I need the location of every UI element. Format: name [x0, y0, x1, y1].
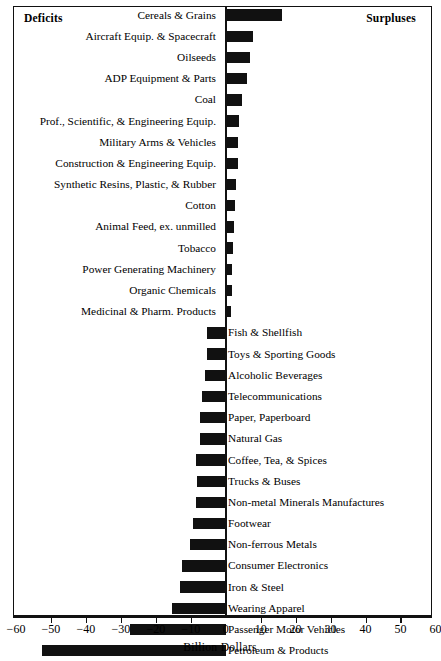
- bar-row: Passenger Motor Vehicles: [0, 620, 440, 641]
- x-axis-tick-label: −30: [111, 622, 130, 637]
- bar-row: Paper, Paperboard: [0, 409, 440, 430]
- bar-category-label: Trucks & Buses: [228, 474, 300, 489]
- bar-category-label: Alcoholic Beverages: [228, 368, 322, 383]
- bar-row: Alcoholic Beverages: [0, 366, 440, 387]
- bar-category-label: Power Generating Machinery: [82, 262, 216, 277]
- bar: [226, 31, 254, 42]
- bar-category-label: Animal Feed, ex. unmilled: [95, 219, 216, 234]
- bar: [180, 581, 226, 592]
- bar-category-label: Organic Chemicals: [129, 283, 216, 298]
- bar: [226, 221, 234, 232]
- bar-category-label: Coffee, Tea, & Spices: [228, 453, 327, 468]
- bar: [226, 306, 231, 317]
- bar-rows: Cereals & GrainsAircraft Equip. & Spacec…: [0, 6, 440, 661]
- bar-category-label: Coal: [195, 92, 216, 107]
- bar: [226, 52, 250, 63]
- bar-row: Trucks & Buses: [0, 472, 440, 493]
- bar: [130, 624, 225, 635]
- bar: [226, 115, 239, 126]
- bar: [226, 94, 242, 105]
- bar: [200, 412, 226, 423]
- bar: [207, 348, 226, 359]
- bar: [226, 158, 238, 169]
- x-axis-tick-label: −50: [42, 622, 61, 637]
- bar-category-label: Wearing Apparel: [228, 601, 305, 616]
- x-axis-tick-label: −40: [77, 622, 96, 637]
- bar-row: Non-metal Minerals Manufactures: [0, 493, 440, 514]
- bar-category-label: Construction & Engineering Equip.: [55, 156, 216, 171]
- bar-category-label: ADP Equipment & Parts: [104, 71, 216, 86]
- bar: [197, 476, 226, 487]
- bar: [196, 497, 226, 508]
- bar: [226, 9, 282, 20]
- bar-category-label: Telecommunications: [228, 389, 322, 404]
- bar-row: Cotton: [0, 197, 440, 218]
- bar-row: Prof., Scientific, & Engineering Equip.: [0, 112, 440, 133]
- x-axis-tick-label: 0: [223, 622, 229, 637]
- bar-category-label: Aircraft Equip. & Spacecraft: [86, 29, 216, 44]
- bar-row: Cereals & Grains: [0, 6, 440, 27]
- bar-row: Fish & Shellfish: [0, 324, 440, 345]
- bar-category-label: Cereals & Grains: [138, 8, 216, 23]
- bar-row: Coal: [0, 91, 440, 112]
- bar-row: Telecommunications: [0, 387, 440, 408]
- bar: [226, 264, 233, 275]
- x-axis: [13, 616, 432, 618]
- x-axis-tick-label: −60: [7, 622, 26, 637]
- bar-row: Toys & Sporting Goods: [0, 345, 440, 366]
- bar: [226, 242, 234, 253]
- bar-category-label: Prof., Scientific, & Engineering Equip.: [40, 114, 216, 129]
- bar-row: Construction & Engineering Equip.: [0, 154, 440, 175]
- bar-category-label: Tobacco: [178, 241, 216, 256]
- bar: [196, 454, 226, 465]
- bar: [226, 200, 235, 211]
- x-axis-tick-label: −10: [181, 622, 200, 637]
- bar-category-label: Footwear: [228, 516, 271, 531]
- bar-row: Medicinal & Pharm. Products: [0, 303, 440, 324]
- bar-category-label: Non-metal Minerals Manufactures: [228, 495, 384, 510]
- bar-row: ADP Equipment & Parts: [0, 70, 440, 91]
- bar-category-label: Medicinal & Pharm. Products: [81, 304, 216, 319]
- bar-category-label: Consumer Electronics: [228, 558, 328, 573]
- bar: [226, 179, 236, 190]
- bar-category-label: Synthetic Resins, Plastic, & Rubber: [54, 177, 216, 192]
- bar-row: Oilseeds: [0, 48, 440, 69]
- bar: [207, 327, 226, 338]
- bar: [190, 539, 226, 550]
- bar-row: Synthetic Resins, Plastic, & Rubber: [0, 176, 440, 197]
- bar-row: Footwear: [0, 515, 440, 536]
- bar-row: Animal Feed, ex. unmilled: [0, 218, 440, 239]
- bar-row: Power Generating Machinery: [0, 260, 440, 281]
- bar: [193, 518, 226, 529]
- bar-row: Aircraft Equip. & Spacecraft: [0, 27, 440, 48]
- bar-row: Coffee, Tea, & Spices: [0, 451, 440, 472]
- bar-category-label: Military Arms & Vehicles: [99, 135, 216, 150]
- bar-category-label: Paper, Paperboard: [228, 410, 310, 425]
- bar-category-label: Iron & Steel: [228, 580, 284, 595]
- bar-row: Military Arms & Vehicles: [0, 133, 440, 154]
- x-axis-title: Billion Dollars: [0, 641, 440, 654]
- bar-row: Non-ferrous Metals: [0, 536, 440, 557]
- x-axis-tick-label: −20: [146, 622, 165, 637]
- bar-category-label: Fish & Shellfish: [228, 325, 302, 340]
- x-axis-tick-label: 10: [255, 622, 267, 637]
- bar-row: Tobacco: [0, 239, 440, 260]
- bar-category-label: Cotton: [185, 198, 216, 213]
- bar-category-label: Toys & Sporting Goods: [228, 347, 335, 362]
- bar-row: Consumer Electronics: [0, 557, 440, 578]
- bar: [172, 603, 226, 614]
- bar-category-label: Oilseeds: [177, 50, 216, 65]
- x-axis-tick-label: 40: [360, 622, 372, 637]
- bar: [226, 73, 247, 84]
- bar-row: Iron & Steel: [0, 578, 440, 599]
- bar-row: Natural Gas: [0, 430, 440, 451]
- bar: [200, 433, 226, 444]
- x-axis-tick-label: 20: [290, 622, 302, 637]
- bar: [226, 285, 232, 296]
- x-axis-tick-label: 60: [429, 622, 441, 637]
- bar-row: Organic Chemicals: [0, 281, 440, 302]
- bar-category-label: Natural Gas: [228, 431, 282, 446]
- bar-category-label: Non-ferrous Metals: [228, 537, 317, 552]
- x-axis-tick-label: 50: [394, 622, 406, 637]
